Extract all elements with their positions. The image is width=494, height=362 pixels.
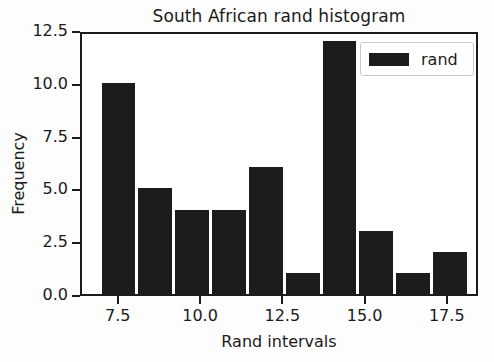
- y-tick-label: 5.0: [43, 179, 68, 198]
- y-tick-mark: [72, 242, 80, 244]
- histogram-bar: [102, 83, 136, 294]
- x-tick-label: 12.5: [252, 306, 312, 325]
- y-tick-label: 10.0: [32, 74, 68, 93]
- y-tick-label: 2.5: [43, 232, 68, 251]
- x-axis: 7.510.012.515.017.5: [0, 296, 494, 336]
- y-tick-mark: [72, 31, 80, 33]
- y-tick-mark: [72, 84, 80, 86]
- x-tick-label: 17.5: [417, 306, 477, 325]
- y-tick-label: 12.5: [32, 21, 68, 40]
- y-axis-label: Frequency: [9, 94, 28, 254]
- histogram-bar: [212, 210, 246, 294]
- histogram-bar: [323, 41, 357, 294]
- histogram-bar: [396, 273, 430, 294]
- y-tick-mark: [72, 137, 80, 139]
- x-tick-label: 10.0: [170, 306, 230, 325]
- legend: rand: [360, 42, 474, 76]
- y-tick-label: 7.5: [43, 127, 68, 146]
- y-tick-mark: [72, 189, 80, 191]
- x-tick-label: 7.5: [88, 306, 148, 325]
- x-tick-mark: [364, 296, 366, 304]
- legend-swatch-rand: [369, 53, 409, 66]
- histogram-bar: [359, 231, 393, 294]
- histogram-figure: South African rand histogram 0.02.55.07.…: [0, 0, 494, 362]
- x-tick-mark: [281, 296, 283, 304]
- histogram-bar: [249, 167, 283, 294]
- histogram-bar: [433, 252, 467, 294]
- chart-title: South African rand histogram: [80, 6, 478, 26]
- histogram-bar: [138, 188, 172, 294]
- legend-label-rand: rand: [421, 50, 458, 69]
- x-tick-mark: [117, 296, 119, 304]
- x-axis-label: Rand intervals: [80, 332, 478, 351]
- histogram-bar: [286, 273, 320, 294]
- x-tick-mark: [446, 296, 448, 304]
- histogram-bar: [175, 210, 209, 294]
- x-tick-mark: [199, 296, 201, 304]
- x-tick-label: 15.0: [335, 306, 395, 325]
